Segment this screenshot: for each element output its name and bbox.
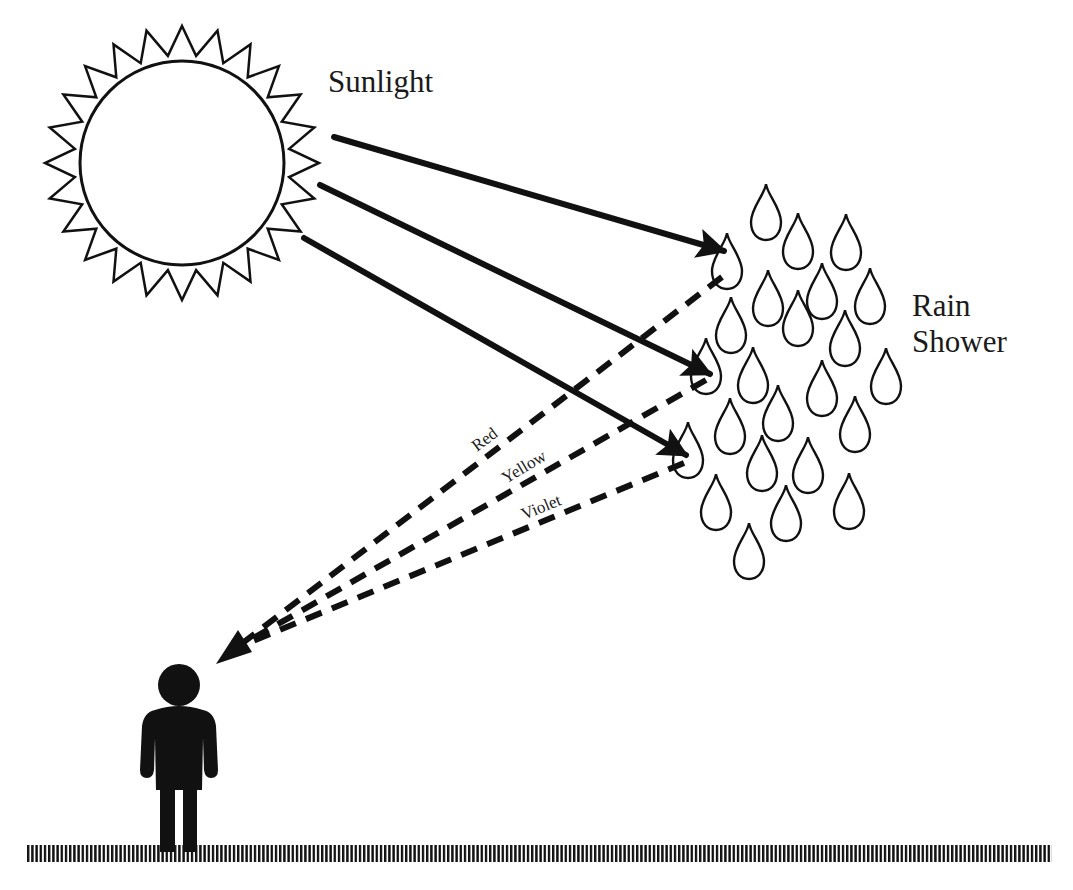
person-icon [140, 664, 218, 852]
raindrop-icon [771, 485, 801, 541]
ground-icon [27, 845, 1052, 862]
raindrop-icon [747, 435, 777, 491]
raindrop-icon [807, 263, 837, 319]
red-ray [236, 277, 722, 648]
sunlight-label: Sunlight [328, 64, 433, 99]
rain-label: Rain [912, 288, 971, 323]
sunlight-ray-1 [334, 137, 724, 251]
raindrop-icon [871, 348, 901, 404]
shower-label: Shower [912, 324, 1007, 359]
raindrop-icon [807, 360, 837, 416]
sunlight-rays [304, 137, 724, 455]
yellow-ray [236, 380, 706, 648]
raindrop-icon [855, 268, 885, 324]
raindrop-icon [830, 310, 860, 366]
raindrop-icon [753, 270, 783, 326]
raindrop-icon [834, 473, 864, 529]
raindrop-icon [783, 213, 813, 269]
raindrop-icon [840, 396, 870, 452]
raindrop-icon [751, 184, 781, 240]
arrowhead-to-observer [216, 630, 252, 664]
sun-icon [45, 26, 319, 300]
raindrop-icon [831, 214, 861, 270]
raindrop-icon [734, 523, 764, 579]
raindrop-icon [716, 297, 746, 353]
raindrop-icon [715, 398, 745, 454]
raindrop-icon [701, 474, 731, 530]
raindrop-icon [738, 347, 768, 403]
raindrop-icon [793, 437, 823, 493]
rainbow-formation-diagram: Sunlight Rain Shower Red Yellow Violet [0, 0, 1073, 890]
violet-ray [236, 463, 684, 648]
